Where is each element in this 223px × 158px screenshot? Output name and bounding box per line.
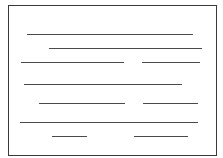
text-line-segment [52,136,87,137]
text-line-segment [142,62,200,63]
text-line-segment [39,103,125,104]
text-block-diagram [0,0,223,158]
text-line-segment [143,103,198,104]
text-line-segment [21,62,124,63]
text-line-segment [27,34,193,35]
text-line-segment [49,48,202,49]
text-line-segment [20,122,198,123]
text-line-segment [24,84,182,85]
diagram-frame [8,5,217,156]
text-line-segment [134,136,188,137]
